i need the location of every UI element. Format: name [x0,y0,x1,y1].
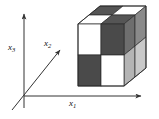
axis-label-x3: x3 [8,43,15,52]
cube-front-face [78,24,124,86]
cube-group [78,6,146,86]
axis-label-x1: x1 [69,99,76,108]
figure-canvas: x3 x2 x1 [0,0,159,119]
front-tile-top-right [101,24,124,55]
axis-label-x1-index: 1 [73,102,76,109]
axis-label-x2: x2 [44,39,51,48]
figure-svg [0,0,159,119]
front-tile-bottom-right [101,55,124,86]
front-tile-top-left [78,24,101,55]
axis-x2-line [12,50,60,110]
axis-label-x2-index: 2 [48,42,51,49]
front-tile-bottom-left [78,55,101,86]
axis-label-x3-index: 3 [12,46,15,53]
